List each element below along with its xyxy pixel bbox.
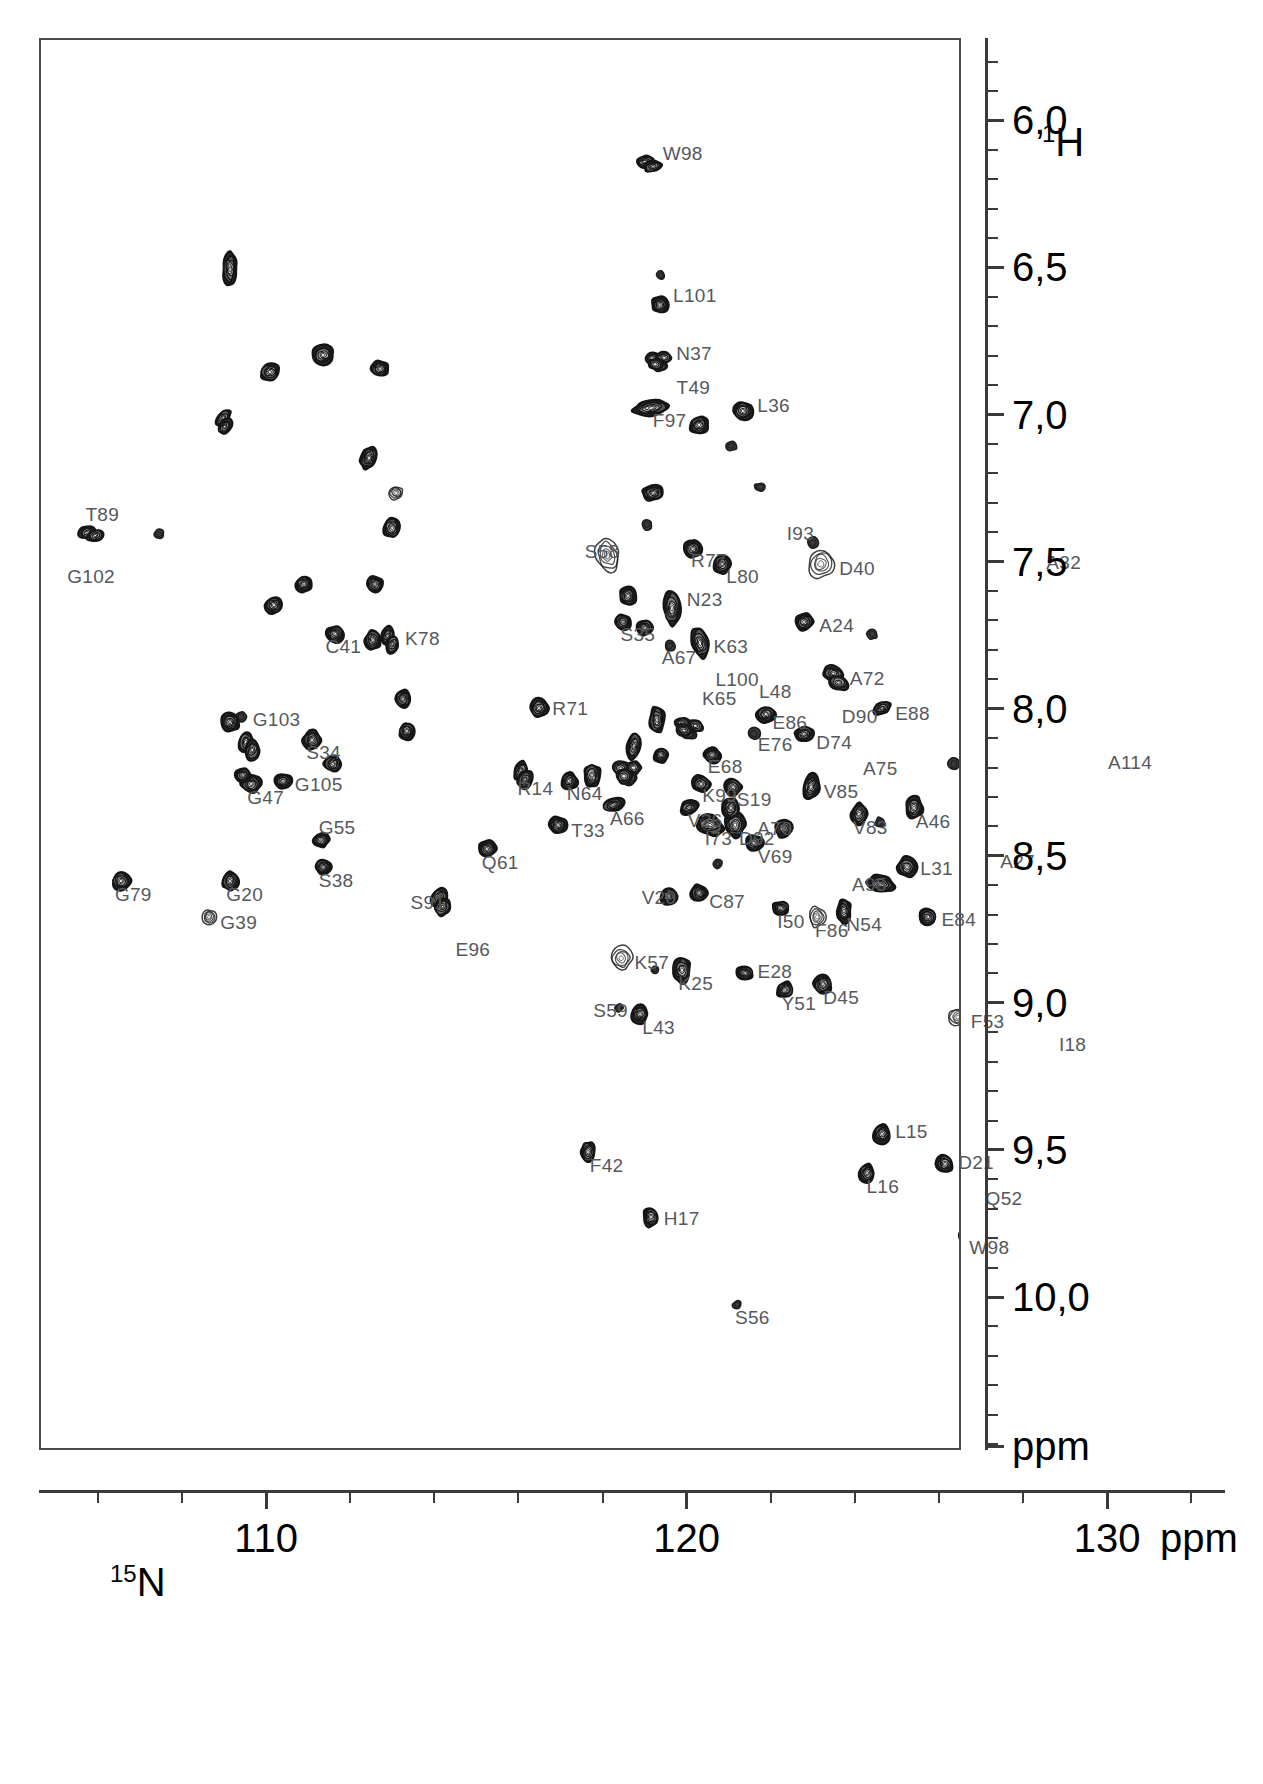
proton-major-tick xyxy=(985,1296,1004,1299)
peak-assignment-label: A66 xyxy=(610,809,645,828)
proton-tick-label: 8,0 xyxy=(1012,686,1068,731)
peak-assignment-label: A67 xyxy=(662,648,697,667)
proton-tick-label: 7,5 xyxy=(1012,539,1068,584)
peak-assignment-label: E86 xyxy=(772,713,807,732)
proton-major-tick xyxy=(985,266,1004,269)
peak-assignment-label: E84 xyxy=(941,910,976,929)
peak-assignment-label: N64 xyxy=(567,784,603,803)
proton-unit-tick xyxy=(985,1445,1004,1448)
peak-assignment-label: I73 xyxy=(705,829,732,848)
proton-minor-tick xyxy=(985,737,998,739)
proton-minor-tick xyxy=(985,149,998,151)
proton-minor-tick xyxy=(985,884,998,886)
peak-assignment-label: K63 xyxy=(713,637,748,656)
peak-assignment-label: N37 xyxy=(676,344,712,363)
peak-assignment-label: L101 xyxy=(673,286,716,305)
peak-assignment-label: S58 xyxy=(585,542,620,561)
peak-assignment-label: R14 xyxy=(518,779,554,798)
peak-assignment-label: D74 xyxy=(816,733,852,752)
proton-minor-tick xyxy=(985,619,998,621)
proton-minor-tick xyxy=(985,1237,998,1239)
proton-minor-tick xyxy=(985,678,998,680)
peak-assignment-label: D40 xyxy=(839,559,875,578)
nitrogen-minor-tick xyxy=(938,1490,940,1503)
peak-assignment-label: F97 xyxy=(653,411,687,430)
proton-minor-tick xyxy=(985,1061,998,1063)
peak-assignment-label: C41 xyxy=(325,637,361,656)
nitrogen-minor-tick xyxy=(97,1490,99,1503)
proton-minor-tick xyxy=(985,208,998,210)
peak-assignment-label: K65 xyxy=(702,689,737,708)
proton-minor-tick xyxy=(985,1325,998,1327)
peak-assignment-label: T49 xyxy=(676,378,710,397)
peak-assignment-label: R77 xyxy=(691,551,727,570)
peak-assignment-label: I18 xyxy=(1059,1035,1086,1054)
proton-minor-tick xyxy=(985,384,998,386)
peak-assignment-label: S38 xyxy=(319,871,354,890)
proton-minor-tick xyxy=(985,1355,998,1357)
peak-assignment-label: D21 xyxy=(958,1153,994,1172)
proton-minor-tick xyxy=(985,649,998,651)
proton-minor-tick xyxy=(985,325,998,327)
peak-assignment-label: L43 xyxy=(642,1018,675,1037)
peak-assignment-label: E68 xyxy=(708,757,743,776)
peak-assignment-label: V69 xyxy=(758,847,793,866)
proton-minor-tick xyxy=(985,61,998,63)
nitrogen-minor-tick xyxy=(349,1490,351,1503)
peak-assignment-label: A75 xyxy=(863,759,898,778)
proton-minor-tick xyxy=(985,1178,998,1180)
peak-assignment-label: A46 xyxy=(916,812,951,831)
peak-assignment-label: S56 xyxy=(735,1308,770,1327)
peak-assignment-label: Q52 xyxy=(986,1189,1023,1208)
peak-assignment-label: A114 xyxy=(1108,753,1152,772)
proton-minor-tick xyxy=(985,531,998,533)
nitrogen-minor-tick xyxy=(1022,1490,1024,1503)
peak-assignment-label: L15 xyxy=(895,1122,928,1141)
peak-assignment-label: W98 xyxy=(663,144,703,163)
proton-minor-tick xyxy=(985,1384,998,1386)
proton-axis-superscript: 1 xyxy=(1042,120,1055,147)
nitrogen-axis-line xyxy=(39,1490,1225,1493)
proton-tick-label: 6,5 xyxy=(1012,245,1068,290)
peak-assignment-label: G39 xyxy=(220,913,257,932)
peak-assignment-label: H17 xyxy=(664,1209,700,1228)
nitrogen-axis-nucleus: N xyxy=(137,1560,166,1604)
peak-assignment-label: L16 xyxy=(866,1177,899,1196)
spectrum-plot-area[interactable]: W98L101N37T49L36F97T89G102I93D40A32S58R7… xyxy=(39,38,961,1450)
proton-minor-tick xyxy=(985,796,998,798)
nitrogen-minor-tick xyxy=(181,1490,183,1503)
peak-assignment-label: V29 xyxy=(642,888,677,907)
peak-assignment-label: K78 xyxy=(405,629,440,648)
peak-assignment-label: G105 xyxy=(295,775,343,794)
peak-assignment-label: S59 xyxy=(593,1001,628,1020)
peak-assignment-label: S91 xyxy=(411,893,446,912)
peak-assignment-label: G79 xyxy=(115,885,152,904)
peak-assignment-label: E28 xyxy=(757,962,792,981)
proton-axis-nucleus: H xyxy=(1055,120,1084,164)
proton-minor-tick xyxy=(985,472,998,474)
proton-minor-tick xyxy=(985,355,998,357)
peak-assignment-label: K99 xyxy=(702,786,737,805)
nitrogen-minor-tick xyxy=(602,1490,604,1503)
proton-minor-tick xyxy=(985,1208,998,1210)
proton-minor-tick xyxy=(985,502,998,504)
proton-minor-tick xyxy=(985,1267,998,1269)
proton-minor-tick xyxy=(985,90,998,92)
nitrogen-tick-label: 130 xyxy=(1074,1516,1141,1561)
peak-assignment-label: N54 xyxy=(846,915,882,934)
proton-minor-tick xyxy=(985,1031,998,1033)
nitrogen-axis-title: 15N xyxy=(110,1560,166,1605)
proton-major-tick xyxy=(985,119,1004,122)
proton-minor-tick xyxy=(985,178,998,180)
proton-minor-tick xyxy=(985,943,998,945)
proton-minor-tick xyxy=(985,1120,998,1122)
proton-major-tick xyxy=(985,1001,1004,1004)
peak-assignment-label: L48 xyxy=(759,682,792,701)
peak-assignment-label: N23 xyxy=(687,590,723,609)
peak-assignment-label: T89 xyxy=(85,505,119,524)
nitrogen-minor-tick xyxy=(770,1490,772,1503)
proton-minor-tick xyxy=(985,590,998,592)
nitrogen-minor-tick xyxy=(433,1490,435,1503)
peak-assignment-label: D45 xyxy=(823,988,859,1007)
peak-label-layer: W98L101N37T49L36F97T89G102I93D40A32S58R7… xyxy=(41,40,959,1448)
